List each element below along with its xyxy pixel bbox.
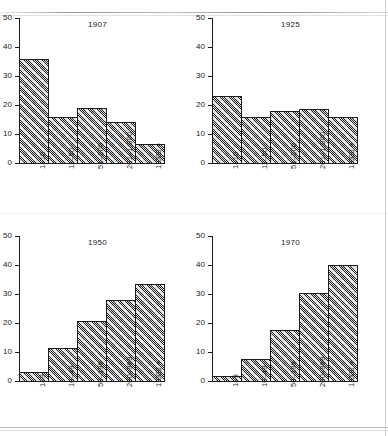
y-axis-line xyxy=(19,236,20,382)
y-axis-tick-label: 50 xyxy=(184,13,205,22)
x-axis-tick-label: 11–50 xyxy=(67,148,76,169)
y-axis-tick-label: 30 xyxy=(184,289,205,298)
x-axis-tick-label: 1,000 + xyxy=(347,360,356,387)
y-axis-tick-label: 10 xyxy=(0,347,12,356)
y-axis-tick xyxy=(15,236,19,237)
y-axis-tick xyxy=(208,294,212,295)
y-axis-tick-label: 50 xyxy=(0,13,12,22)
y-axis-tick-label: 20 xyxy=(184,318,205,327)
x-axis-tick-label: 10–49 xyxy=(67,365,76,387)
y-axis-tick-label: 10 xyxy=(184,347,205,356)
x-axis-tick-label: 50–199 xyxy=(96,361,105,387)
y-axis-tick xyxy=(208,76,212,77)
x-axis-tick-label: 201–1,000 xyxy=(318,132,327,169)
y-axis-tick xyxy=(208,47,212,48)
x-axis-tick-label: 1,000 + xyxy=(154,360,163,387)
y-axis-tick-label: 0 xyxy=(0,158,12,167)
plot-area: 010203040501–910–4950–199200–9991,000 + xyxy=(212,236,357,382)
plot-area: 010203040501–1011–5051–200201–1,0001,000… xyxy=(19,18,164,164)
y-axis-tick-label: 0 xyxy=(184,376,205,385)
y-axis-tick xyxy=(208,265,212,266)
y-axis-tick-label: 40 xyxy=(184,42,205,51)
y-axis-line xyxy=(212,236,213,382)
y-axis-tick xyxy=(15,18,19,19)
y-axis-tick-label: 10 xyxy=(0,129,12,138)
y-axis-tick xyxy=(15,294,19,295)
plot-area: 010203040501–910–4950–199200–9991,000 + xyxy=(19,236,164,382)
scan-artifact-line-right xyxy=(385,0,386,436)
x-axis-tick-label: 1–10 xyxy=(38,152,47,170)
scan-artifact-line-bottom xyxy=(0,427,388,428)
x-axis-tick-label: 1–9 xyxy=(231,374,240,387)
x-axis-tick-label: 201–1,000 xyxy=(125,132,134,169)
bar xyxy=(19,59,49,164)
y-axis-tick-label: 30 xyxy=(0,71,12,80)
x-axis-tick-label: 200–999 xyxy=(318,356,327,387)
y-axis-tick-label: 50 xyxy=(184,231,205,240)
y-axis-tick-label: 0 xyxy=(184,158,205,167)
x-axis-tick-label: 50–199 xyxy=(289,361,298,387)
x-axis-tick-label: 200–999 xyxy=(125,356,134,387)
x-axis-tick-label: 51–200 xyxy=(289,143,298,169)
y-axis-tick-label: 0 xyxy=(0,376,12,385)
y-axis-tick xyxy=(15,323,19,324)
scan-artifact-line-bottom-secondary xyxy=(0,430,388,431)
y-axis-tick-label: 20 xyxy=(184,100,205,109)
y-axis-tick xyxy=(15,352,19,353)
y-axis-tick-label: 40 xyxy=(0,260,12,269)
x-axis-tick-label: 10–49 xyxy=(260,365,269,387)
y-axis-tick xyxy=(208,236,212,237)
x-axis-tick-label: 1–9 xyxy=(38,374,47,387)
y-axis-tick xyxy=(15,265,19,266)
y-axis-tick-label: 10 xyxy=(184,129,205,138)
x-axis-tick-label: 1,000 + xyxy=(154,142,163,169)
y-axis-tick-label: 40 xyxy=(0,42,12,51)
y-axis-tick-label: 30 xyxy=(0,289,12,298)
y-axis-tick-label: 40 xyxy=(184,260,205,269)
x-axis-tick-label: 11–50 xyxy=(260,148,269,169)
y-axis-tick-label: 20 xyxy=(0,318,12,327)
x-axis-tick-label: 1,000 + xyxy=(347,142,356,169)
y-axis-tick-label: 30 xyxy=(184,71,205,80)
x-axis-tick-label: 51–200 xyxy=(96,143,105,169)
x-axis-tick-label: 1–10 xyxy=(231,152,240,170)
y-axis-tick xyxy=(208,352,212,353)
y-axis-tick xyxy=(208,18,212,19)
plot-area: 010203040501–1011–5051–200201–1,0001,000… xyxy=(212,18,357,164)
y-axis-tick-label: 20 xyxy=(0,100,12,109)
y-axis-tick xyxy=(15,47,19,48)
y-axis-tick xyxy=(208,323,212,324)
y-axis-tick-label: 50 xyxy=(0,231,12,240)
scan-artifact-line-middle xyxy=(0,213,388,214)
